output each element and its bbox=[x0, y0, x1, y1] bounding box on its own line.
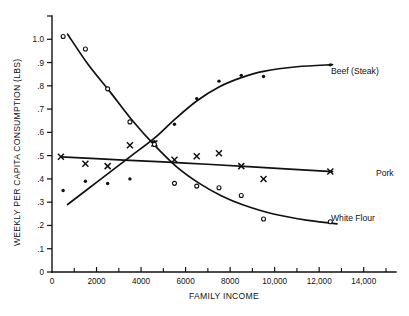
x-tick-label: 10,000 bbox=[262, 277, 287, 286]
y-axis-title: WEEKLY PER CAPITA CONSUMPTION (LBS) bbox=[12, 59, 22, 246]
axes bbox=[52, 16, 396, 272]
data-point-white-flour bbox=[83, 47, 87, 51]
y-tick-label: .9 bbox=[37, 59, 44, 68]
data-point-white-flour bbox=[217, 186, 221, 190]
y-tick-label: .2 bbox=[37, 221, 44, 230]
series-label-beef: Beef (Steak) bbox=[331, 66, 379, 76]
data-point-beef-steak bbox=[128, 177, 131, 180]
y-tick-label: .6 bbox=[37, 128, 44, 137]
data-point-beef-steak bbox=[84, 180, 87, 183]
data-point-beef-steak bbox=[217, 79, 220, 82]
data-point-pork bbox=[216, 150, 222, 156]
series-curve-pork bbox=[61, 157, 333, 172]
y-tick-label: .1 bbox=[37, 245, 44, 254]
y-tick-label: .7 bbox=[37, 105, 44, 114]
data-point-white-flour bbox=[61, 34, 65, 38]
x-axis-ticks: 0200040006000800010,00012,00014,000 bbox=[50, 267, 386, 286]
x-tick-label: 12,000 bbox=[307, 277, 332, 286]
x-tick-label: 6000 bbox=[176, 277, 195, 286]
data-point-white-flour bbox=[152, 142, 156, 146]
y-tick-label: 1.0 bbox=[33, 35, 45, 44]
data-point-beef-steak bbox=[61, 189, 64, 192]
data-point-white-flour bbox=[262, 217, 266, 221]
y-tick-label: .3 bbox=[37, 198, 44, 207]
data-point-white-flour bbox=[128, 120, 132, 124]
data-point-pork bbox=[127, 142, 133, 148]
consumption-line-chart: 0.1.2.3.4.5.6.7.8.91.0 02000400060008000… bbox=[0, 0, 409, 316]
data-point-beef-steak bbox=[262, 75, 265, 78]
data-point-beef-steak bbox=[195, 97, 198, 100]
series-curves bbox=[61, 34, 337, 224]
series-markers bbox=[58, 34, 333, 223]
x-axis-title: FAMILY INCOME bbox=[189, 291, 259, 301]
y-tick-label: 0 bbox=[39, 268, 44, 277]
y-tick-label: .8 bbox=[37, 82, 44, 91]
y-tick-label: .5 bbox=[37, 152, 44, 161]
data-point-beef-steak bbox=[240, 74, 243, 77]
series-labels: Beef (Steak) Pork White Flour bbox=[331, 66, 394, 223]
data-point-white-flour bbox=[172, 181, 176, 185]
data-point-pork bbox=[105, 163, 111, 169]
data-point-pork bbox=[82, 161, 88, 167]
y-axis-ticks: 0.1.2.3.4.5.6.7.8.91.0 bbox=[33, 16, 52, 277]
x-tick-label: 14,000 bbox=[351, 277, 376, 286]
series-label-white-flour: White Flour bbox=[331, 213, 375, 223]
y-tick-label: .4 bbox=[37, 175, 44, 184]
data-point-white-flour bbox=[195, 184, 199, 188]
data-point-beef-steak bbox=[106, 182, 109, 185]
data-point-pork bbox=[261, 176, 267, 182]
data-point-white-flour bbox=[106, 87, 110, 91]
data-point-beef-steak bbox=[173, 123, 176, 126]
x-tick-label: 8000 bbox=[221, 277, 240, 286]
series-curve-white-flour bbox=[68, 34, 337, 224]
x-tick-label: 2000 bbox=[87, 277, 106, 286]
data-point-white-flour bbox=[239, 193, 243, 197]
series-label-pork: Pork bbox=[376, 168, 394, 178]
chart-figure: 0.1.2.3.4.5.6.7.8.91.0 02000400060008000… bbox=[0, 0, 409, 316]
x-tick-label: 0 bbox=[50, 277, 55, 286]
data-point-pork bbox=[194, 153, 200, 159]
x-tick-label: 4000 bbox=[132, 277, 151, 286]
